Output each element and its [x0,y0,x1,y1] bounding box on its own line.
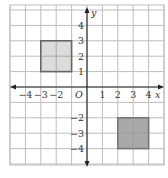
x-tick-label: 4 [146,89,152,100]
x-axis-left-arrow-icon [10,85,16,90]
x-tick-label: 2 [115,89,121,100]
y-tick-label: 2 [78,51,84,62]
x-axis-label: x [155,89,161,100]
y-tick-label: −3 [70,128,84,139]
x-tick-label: −3 [34,89,48,100]
coordinate-plane: x y O −4−3−212344321−2−3−4 [0,0,168,178]
y-tick-label: 3 [78,35,84,46]
x-tick-label: −2 [49,89,63,100]
y-tick-label: −2 [70,112,84,123]
x-tick-label: 3 [130,89,136,100]
origin-label: O [75,89,83,100]
x-tick-label: 1 [99,89,105,100]
y-tick-label: −4 [70,143,84,154]
x-tick-label: −4 [18,89,32,100]
y-tick-label: 4 [78,20,84,31]
y-tick-label: 1 [78,66,84,77]
y-axis-label: y [90,7,97,18]
